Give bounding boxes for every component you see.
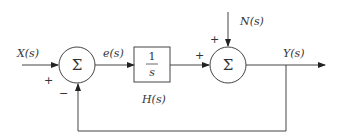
sigma-icon: Σ [223, 56, 234, 74]
sum2-top-plus-sign: + [210, 33, 219, 46]
sum1-plus-sign: + [44, 74, 53, 87]
sigma-icon: Σ [72, 56, 83, 74]
disturbance-label: N(s) [239, 15, 264, 28]
block-numerator: 1 [149, 50, 156, 63]
block-denominator: s [149, 66, 155, 79]
block-name-label: H(s) [141, 93, 166, 106]
block-diagram: X(s) + Σ − e(s) 1 s H(s) + N(s) + Σ Y(s) [0, 0, 339, 140]
feedback-path [78, 65, 286, 131]
error-label: e(s) [103, 47, 124, 60]
output-label: Y(s) [283, 47, 305, 60]
sum1-minus-sign: − [59, 87, 68, 100]
summing-junction-2: Σ [210, 47, 246, 83]
transfer-function-block: 1 s [134, 47, 170, 82]
input-label: X(s) [16, 47, 39, 60]
summing-junction-1: Σ [59, 47, 95, 83]
sum2-left-plus-sign: + [195, 49, 204, 62]
